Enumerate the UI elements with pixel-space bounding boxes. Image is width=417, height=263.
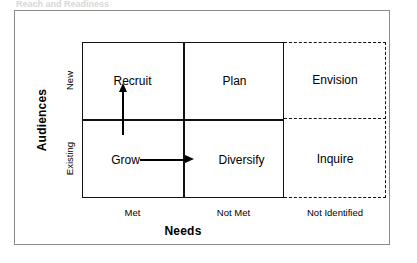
matrix-cell-plan-label: Plan bbox=[222, 74, 246, 88]
y-axis-title: Audiences bbox=[33, 42, 51, 198]
matrix-cell-diversify[interactable]: Diversify bbox=[185, 121, 284, 198]
matrix-grid: Recruit Plan Envision Grow Diversify Inq… bbox=[82, 42, 386, 198]
row-label-existing-text: Existing bbox=[65, 142, 76, 175]
arrow-right-icon bbox=[140, 155, 194, 164]
matrix-cell-plan[interactable]: Plan bbox=[185, 42, 284, 119]
matrix-cell-grow-label: Grow bbox=[111, 153, 140, 167]
matrix-cell-envision-label: Envision bbox=[312, 73, 357, 87]
arrow-up-shaft bbox=[122, 89, 124, 135]
top-caption: Reach and Readiness bbox=[16, 0, 176, 7]
column-label-not-met: Not Met bbox=[183, 205, 284, 219]
column-label-met: Met bbox=[82, 205, 183, 219]
row-label-existing: Existing bbox=[60, 119, 80, 198]
matrix-cell-envision[interactable]: Envision bbox=[284, 42, 386, 118]
row-label-new: New bbox=[60, 42, 80, 119]
matrix-cell-inquire-label: Inquire bbox=[317, 152, 354, 166]
matrix-cell-inquire[interactable]: Inquire bbox=[284, 120, 386, 198]
y-axis-title-text: Audiences bbox=[35, 89, 49, 152]
row-label-new-text: New bbox=[64, 71, 75, 90]
column-label-not-identified: Not Identified bbox=[284, 205, 386, 219]
arrow-right-shaft bbox=[140, 159, 188, 161]
x-axis-title: Needs bbox=[82, 224, 284, 238]
row-divider-dashed bbox=[284, 118, 386, 119]
arrow-right-head bbox=[185, 155, 194, 163]
arrow-up-icon bbox=[118, 83, 127, 135]
matrix-cell-diversify-label: Diversify bbox=[218, 153, 264, 167]
figure-frame: Audiences New Existing Recruit Plan Envi… bbox=[14, 10, 390, 245]
matrix-cell-recruit[interactable]: Recruit bbox=[82, 42, 183, 119]
